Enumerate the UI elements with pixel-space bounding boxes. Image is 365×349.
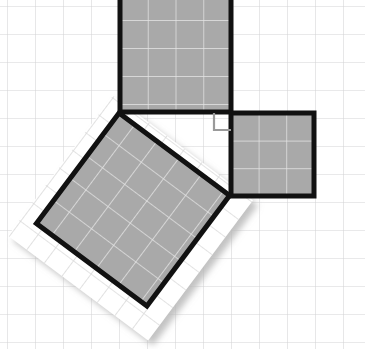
- square-on-horizontal-leg: [231, 113, 314, 196]
- figure-canvas: [0, 0, 365, 349]
- square-right-inner-grid: [231, 113, 314, 196]
- square-on-vertical-leg: [120, 0, 231, 112]
- square-top-inner-grid: [120, 0, 231, 112]
- pythagorean-theorem-figure: [0, 0, 365, 349]
